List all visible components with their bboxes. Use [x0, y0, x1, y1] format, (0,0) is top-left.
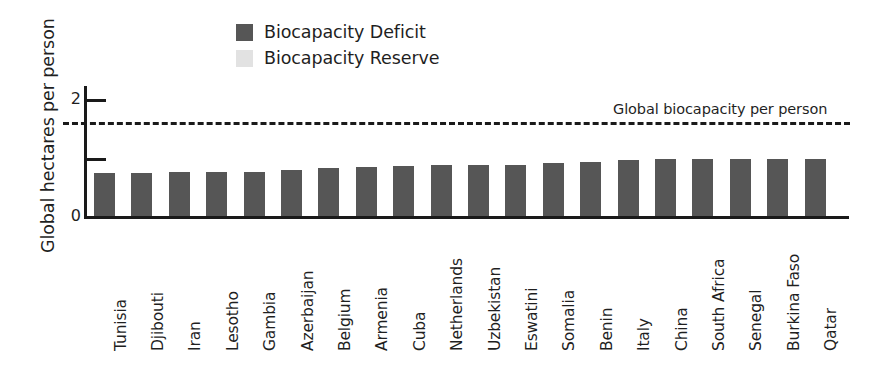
threshold-label: Global biocapacity per person: [613, 101, 827, 117]
x-tick-label-senegal: Senegal: [747, 290, 765, 351]
x-tick-label-netherlands: Netherlands: [448, 258, 466, 351]
bar-south-africa: [692, 159, 713, 216]
bar-benin: [580, 162, 601, 216]
bar-somalia: [543, 163, 564, 216]
x-tick-label-belgium: Belgium: [336, 289, 354, 352]
bar-iran: [169, 172, 190, 216]
x-tick-label-cuba: Cuba: [411, 312, 429, 351]
bar-qatar: [805, 159, 826, 216]
x-tick-label-djibouti: Djibouti: [149, 292, 167, 351]
bar-senegal: [730, 159, 751, 216]
bar-djibouti: [131, 173, 152, 216]
bar-belgium: [318, 168, 339, 216]
x-tick-label-south-africa: South Africa: [710, 259, 728, 351]
x-tick-label-italy: Italy: [635, 318, 653, 351]
x-axis-spine: [84, 216, 849, 219]
y-tick-label-2: 2: [55, 89, 81, 108]
bar-tunisia: [94, 173, 115, 216]
bar-eswatini: [505, 165, 526, 216]
y-tick-0: [87, 216, 106, 219]
y-tick-label-0: 0: [55, 206, 81, 225]
y-tick-1: [87, 158, 106, 161]
x-tick-label-uzbekistan: Uzbekistan: [486, 267, 504, 351]
x-tick-label-gambia: Gambia: [261, 292, 279, 351]
x-tick-label-lesotho: Lesotho: [224, 291, 242, 351]
threshold-line: [63, 122, 850, 125]
x-tick-label-benin: Benin: [598, 308, 616, 351]
x-tick-label-qatar: Qatar: [822, 308, 840, 351]
bar-gambia: [244, 172, 265, 216]
bar-cuba: [393, 166, 414, 216]
x-tick-label-armenia: Armenia: [373, 287, 391, 351]
bar-netherlands: [431, 165, 452, 216]
x-tick-label-azerbaijan: Azerbaijan: [299, 271, 317, 351]
plot-area: 02 Global biocapacity per person Tunisia…: [0, 0, 882, 389]
bar-china: [655, 159, 676, 216]
x-tick-label-tunisia: Tunisia: [112, 299, 130, 351]
y-axis-spine: [84, 86, 87, 219]
bar-lesotho: [206, 172, 227, 216]
y-tick-2: [87, 99, 106, 102]
x-tick-label-china: China: [673, 307, 691, 351]
x-tick-label-burkina-faso: Burkina Faso: [785, 254, 803, 351]
bar-uzbekistan: [468, 165, 489, 216]
bar-azerbaijan: [281, 170, 302, 216]
x-tick-label-somalia: Somalia: [560, 290, 578, 351]
bar-italy: [618, 160, 639, 216]
bar-burkina-faso: [767, 159, 788, 216]
biocapacity-deficit-chart: Global hectares per person Biocapacity D…: [0, 0, 882, 389]
x-tick-label-iran: Iran: [186, 321, 204, 351]
bar-armenia: [356, 167, 377, 216]
x-tick-label-eswatini: Eswatini: [523, 288, 541, 351]
